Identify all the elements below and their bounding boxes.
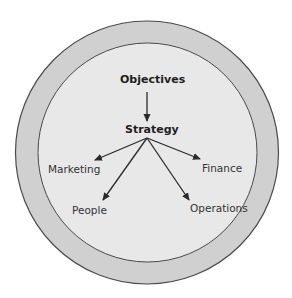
diagram-canvas bbox=[0, 0, 292, 298]
node-objectives: Objectives bbox=[120, 74, 185, 85]
node-people: People bbox=[72, 205, 107, 216]
node-finance: Finance bbox=[202, 163, 242, 174]
strategy-diagram: Objectives Strategy Marketing Finance Pe… bbox=[0, 0, 292, 298]
node-operations: Operations bbox=[190, 203, 248, 214]
node-strategy: Strategy bbox=[125, 124, 179, 135]
node-marketing: Marketing bbox=[48, 164, 100, 175]
